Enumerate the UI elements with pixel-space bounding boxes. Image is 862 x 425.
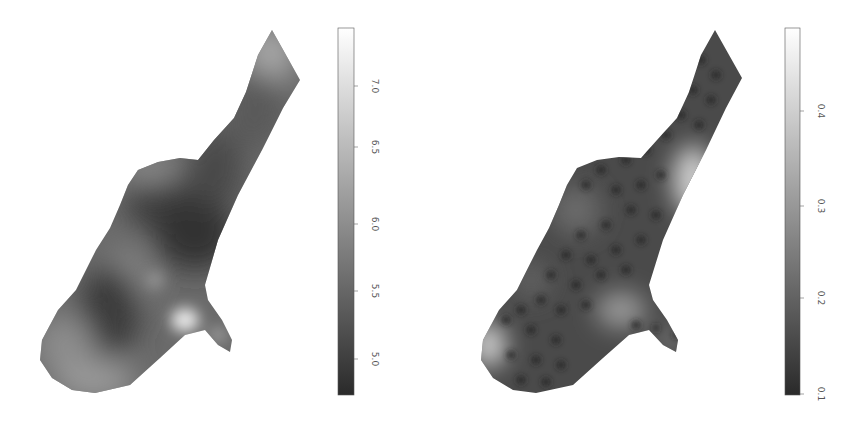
tick-label: 0.2 xyxy=(816,291,826,305)
tick-label: 0.4 xyxy=(816,104,826,119)
colorbar-ticks-standard-error: 0.4 0.3 0.2 0.1 xyxy=(800,104,826,401)
colorbar-prediction xyxy=(338,28,354,395)
colorbar-standard-error xyxy=(785,28,800,395)
tick-label: 6.5 xyxy=(370,140,380,154)
map-panel-prediction: 7.0 6.5 6.0 5.5 5.0 xyxy=(0,0,431,425)
map-panel-standard-error: 0.4 0.3 0.2 0.1 xyxy=(431,0,862,425)
prediction-surface xyxy=(0,0,431,425)
standard-error-map: 0.4 0.3 0.2 0.1 xyxy=(431,0,862,425)
tick-label: 6.0 xyxy=(370,217,380,232)
tick-label: 0.3 xyxy=(816,199,826,213)
tick-label: 5.0 xyxy=(370,352,380,367)
prediction-map: 7.0 6.5 6.0 5.5 5.0 xyxy=(0,0,431,425)
tick-label: 5.5 xyxy=(370,284,380,298)
tick-label: 0.1 xyxy=(816,387,826,401)
tick-label: 7.0 xyxy=(370,79,380,94)
colorbar-ticks-prediction: 7.0 6.5 6.0 5.5 5.0 xyxy=(354,79,380,367)
